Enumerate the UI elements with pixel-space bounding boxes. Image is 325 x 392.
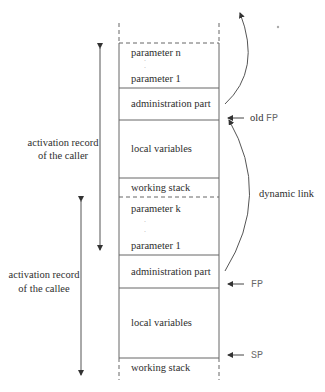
ellipsis-dot: · [144, 58, 146, 64]
old-fp-label: old FP [250, 112, 278, 125]
caller-label-line1: activation record [27, 137, 99, 149]
callee-label-line2: of the callee [8, 283, 80, 295]
caller-working-stack: working stack [131, 182, 190, 194]
ellipsis-dot: · [144, 65, 146, 71]
dynamic-link-arrow [225, 120, 250, 271]
ellipsis-dot: · [144, 219, 146, 225]
sp-label: SP [251, 350, 263, 362]
caller-parameter-n: parameter n [131, 47, 181, 59]
callee-parameter-k: parameter k [131, 203, 181, 215]
ellipsis-dot: · [144, 229, 146, 235]
dynamic-link-label: dynamic link [259, 188, 314, 200]
callee-local-variables: local variables [131, 317, 192, 329]
fp-label: FP [251, 279, 263, 291]
old-fp-prefix: old [250, 112, 263, 123]
caller-parameter-1: parameter 1 [131, 73, 181, 85]
callee-parameter-1: parameter 1 [131, 240, 181, 252]
caller-local-variables: local variables [131, 143, 192, 155]
callee-working-stack: working stack [131, 362, 190, 374]
old-fp-register: FP [266, 113, 278, 124]
caller-label-line2: of the caller [27, 150, 99, 162]
caller-administration-part: administration part [131, 98, 211, 110]
callee-label-line1: activation record [8, 269, 80, 281]
upward-link-arrow [225, 13, 248, 104]
callee-administration-part: administration part [131, 266, 211, 278]
